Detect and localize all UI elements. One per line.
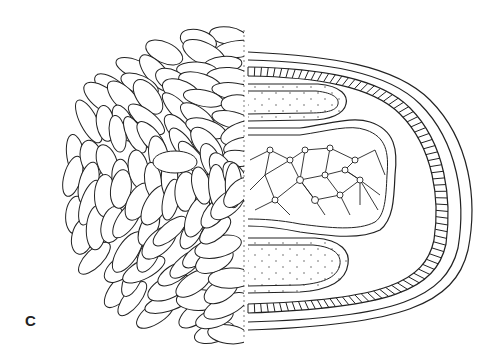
central-lobe	[248, 120, 396, 236]
upper-lobe	[248, 84, 346, 121]
section-view	[248, 52, 472, 330]
panel-label: C	[25, 312, 36, 329]
scale-surface-view	[59, 24, 269, 347]
polygonal-cell-network	[250, 145, 385, 215]
central-scale	[153, 151, 197, 173]
biological-diagram	[0, 0, 484, 352]
